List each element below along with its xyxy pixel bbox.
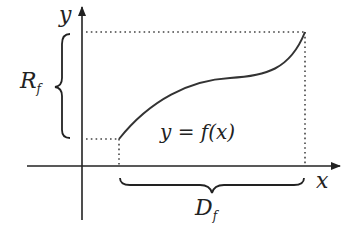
y-axis-label: y (59, 2, 71, 27)
range-brace (55, 34, 70, 138)
x-axis-label: x (316, 168, 328, 193)
range-label: Rf (20, 68, 41, 96)
function-label: y = f(x) (160, 120, 235, 144)
domain-brace (120, 178, 304, 193)
domain-label: Df (195, 195, 217, 223)
function-diagram (0, 0, 354, 237)
